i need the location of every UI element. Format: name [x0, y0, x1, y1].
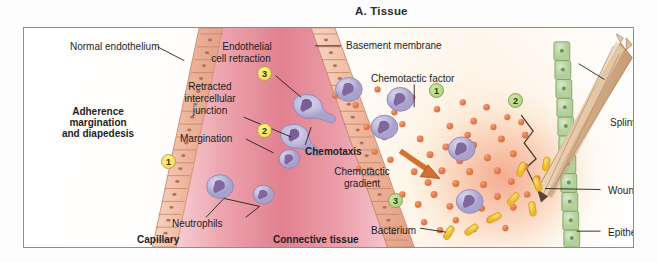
neutrophil-tissue-4: [456, 190, 483, 214]
label-chemotactic-gradient-line-1: Chemotactic: [322, 166, 402, 178]
illustration-frame: 1 2 3 1 2 3 Adherence margination and di…: [23, 27, 634, 248]
label-chemotactic-factor: Chemotactic factor: [371, 73, 454, 85]
figure-title: A. Tissue: [355, 5, 408, 17]
step-badge-tissue-1: 1: [429, 83, 444, 98]
step-badge-capillary-3: 3: [257, 66, 272, 81]
label-basement-membrane: Basement membrane: [346, 40, 442, 52]
label-retracted-junction-line-3: junction: [174, 105, 246, 117]
label-zone-connective-tissue: Connective tissue: [273, 234, 359, 246]
neutrophil-emerged: [335, 78, 362, 102]
step-badge-tissue-2: 2: [508, 93, 523, 108]
neutrophil-tissue-2: [371, 115, 398, 139]
label-splinter: Splinter: [610, 117, 634, 129]
neutrophil-in-lumen-1: [207, 175, 234, 199]
step-badge-capillary-1: 1: [161, 154, 176, 169]
label-neutrophils: Neutrophils: [172, 218, 223, 230]
neutrophil-tissue-3: [448, 137, 475, 161]
label-bacterium: Bacterium: [371, 225, 416, 237]
step-badge-capillary-2: 2: [257, 123, 272, 138]
label-wound: Wound: [608, 185, 634, 197]
label-endothelial-cell-retraction-line-1: Endothelial: [202, 41, 292, 53]
panel-heading-line-2: margination: [38, 117, 158, 129]
panel-heading-line-3: and diapedesis: [38, 128, 158, 140]
label-endothelial-cell-retraction-line-2: cell retraction: [190, 53, 292, 65]
label-zone-capillary: Capillary: [137, 234, 179, 246]
label-chemotaxis: Chemotaxis: [305, 146, 362, 158]
label-retracted-junction-line-1: Retracted: [174, 81, 246, 93]
label-retracted-junction-line-2: intercellular: [174, 93, 246, 105]
step-badge-tissue-3: 3: [388, 193, 403, 208]
figure-canvas: A. Tissue: [0, 0, 658, 262]
label-epithelium: Epithelium: [608, 227, 634, 239]
chemotactic-gradient-arrow: [400, 151, 440, 179]
neutrophil-in-lumen-2: [253, 185, 274, 204]
neutrophil-tissue-1: [387, 87, 414, 111]
panel-heading-line-1: Adherence: [38, 106, 158, 118]
label-chemotactic-gradient-line-2: gradient: [322, 178, 402, 190]
label-margination: Margination: [180, 133, 232, 145]
label-normal-endothelium: Normal endothelium: [70, 41, 160, 53]
